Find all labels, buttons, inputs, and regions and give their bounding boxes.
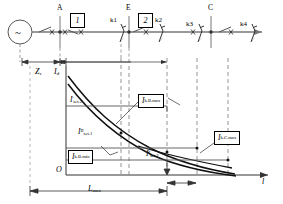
level-label-iset2-roman1: IIset.2 <box>146 150 159 159</box>
intersection-dot-1 <box>120 132 123 135</box>
leader-ikbmin-a <box>101 146 110 155</box>
callout-ikb-max[interactable]: Ik.B.max <box>138 94 164 108</box>
breaker-box-2[interactable]: 2 <box>138 13 153 28</box>
node-dot-e <box>127 30 131 34</box>
node-label-c: C <box>208 4 213 12</box>
leader-ikcmax <box>200 143 214 153</box>
dimension-line-inner <box>167 181 196 185</box>
dim-label-id: Id <box>54 68 59 77</box>
fault-symbol-k3 <box>198 24 204 42</box>
level-label-iset1-double: IIIset.1 <box>78 128 92 137</box>
chart-x-axis-label: l <box>262 178 264 186</box>
leader-ikbmax <box>116 102 138 124</box>
level-label-iset2-prime: I'set.2 <box>70 96 82 105</box>
switch-blade-source <box>39 27 51 32</box>
leader-iset2-prime-box <box>168 98 180 105</box>
source-symbol: ~ <box>15 27 21 38</box>
leader-ikbmin-b <box>110 152 118 155</box>
fault-label-k1: k1 <box>110 17 117 24</box>
node-label-a: A <box>57 4 62 12</box>
diagram-root: ~ A E C 1 2 k1 k2 k3 k4 Zs Id I'set.2 II… <box>0 0 283 204</box>
node-label-e: E <box>126 4 131 12</box>
intersection-dot-4 <box>227 159 230 162</box>
fault-symbol-k2 <box>159 24 165 42</box>
chart-vertical-markers <box>121 58 228 175</box>
node-dot-a <box>58 30 62 34</box>
intersection-dot-3 <box>196 147 199 150</box>
fault-label-k4: k4 <box>240 21 247 28</box>
callout-ikc-max[interactable]: Ik.C.max <box>214 131 240 145</box>
intersection-dot-2 <box>166 151 169 154</box>
dim-label-zs: Zs <box>35 68 41 77</box>
callout-ikb-min[interactable]: Ik.B.min <box>68 150 93 164</box>
fault-label-k3: k3 <box>186 21 193 28</box>
fault-symbol-k1 <box>120 24 126 42</box>
fault-label-k2: k2 <box>155 17 162 24</box>
node-dot-c <box>209 30 213 34</box>
dimension-arrow-right <box>161 60 167 64</box>
dim-label-lmax: Lmax <box>88 185 101 194</box>
projection-lines <box>20 44 129 62</box>
breaker-box-1[interactable]: 1 <box>70 13 85 28</box>
chart-origin-label: O <box>56 166 62 174</box>
bus-arrow-head <box>254 29 262 35</box>
